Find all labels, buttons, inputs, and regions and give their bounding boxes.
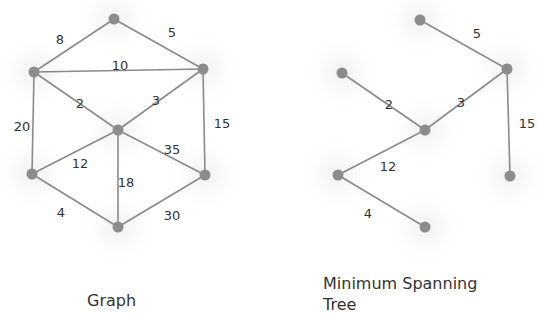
minimum-spanning-tree: 52315124 bbox=[333, 15, 536, 233]
graph-edge-EG bbox=[32, 174, 118, 227]
graph-edge-weight: 5 bbox=[168, 25, 176, 40]
mst-edge-EG bbox=[338, 175, 425, 227]
graph-edge-weight: 4 bbox=[57, 205, 65, 220]
graph-edge-weight: 35 bbox=[164, 142, 181, 157]
graph-edge-DF bbox=[118, 130, 205, 175]
mst-edge-CD bbox=[425, 69, 507, 130]
mst-node-A bbox=[415, 15, 426, 26]
graph-edge-weight: 30 bbox=[164, 208, 181, 223]
graph-node-D bbox=[113, 125, 124, 136]
graph-edge-weight: 18 bbox=[118, 175, 135, 190]
mst-caption-line1: Minimum Spanning bbox=[323, 273, 477, 294]
graph-edge-weight: 8 bbox=[56, 32, 64, 47]
mst-node-F bbox=[505, 171, 516, 182]
mst-edge-BD bbox=[342, 73, 425, 130]
mst-caption-line2: Tree bbox=[323, 294, 477, 315]
mst-node-B bbox=[337, 68, 348, 79]
graph-node-A bbox=[109, 14, 120, 25]
mst-node-E bbox=[333, 170, 344, 181]
graph-edge-AB bbox=[34, 19, 114, 72]
mst-node-G bbox=[420, 222, 431, 233]
graph-edge-weight: 20 bbox=[14, 119, 31, 134]
mst-edge-weight: 2 bbox=[385, 97, 393, 112]
mst-node-D bbox=[420, 125, 431, 136]
mst-edge-weight: 5 bbox=[473, 26, 481, 41]
graph-node-G bbox=[113, 222, 124, 233]
mst-edge-AC bbox=[420, 20, 507, 69]
graph-edge-weight: 15 bbox=[214, 116, 231, 131]
graph-edge-weight: 2 bbox=[76, 96, 84, 111]
mst-caption: Minimum Spanning Tree bbox=[323, 273, 477, 315]
graph-edge-CD bbox=[118, 69, 203, 130]
graph-edge-weight: 10 bbox=[112, 58, 129, 73]
mst-node-C bbox=[502, 64, 513, 75]
mst-edge-weight: 3 bbox=[457, 95, 465, 110]
graph-caption: Graph bbox=[87, 290, 136, 311]
graph-node-E bbox=[27, 169, 38, 180]
mst-edge-weight: 4 bbox=[364, 206, 372, 221]
graph-node-B bbox=[29, 67, 40, 78]
mst-edge-weight: 15 bbox=[519, 116, 536, 131]
graph-edge-weight: 3 bbox=[152, 93, 160, 108]
graph-node-C bbox=[198, 64, 209, 75]
mst-edge-weight: 12 bbox=[380, 159, 397, 174]
graph-edge-weight: 12 bbox=[72, 156, 89, 171]
graph-node-F bbox=[200, 170, 211, 181]
